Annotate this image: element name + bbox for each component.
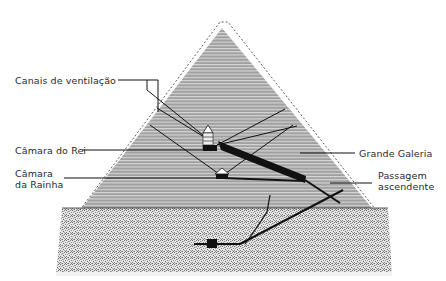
label-ascending-passage-line1: Passagem bbox=[378, 170, 427, 181]
label-queens-chamber-line1: Câmara bbox=[15, 168, 53, 179]
label-ventilation-shafts: Canais de ventilação bbox=[15, 75, 116, 86]
pyramid-cross-section bbox=[0, 0, 446, 281]
label-ascending-passage-line2: ascendente bbox=[378, 181, 434, 192]
label-queens-chamber-line2: da Rainha bbox=[15, 179, 64, 190]
bedrock bbox=[56, 208, 392, 276]
label-grand-gallery: Grande Galeria bbox=[359, 148, 432, 159]
label-kings-chamber: Câmara do Rei bbox=[15, 145, 86, 156]
pyramid bbox=[62, 22, 388, 210]
subterranean-chamber bbox=[207, 239, 217, 248]
